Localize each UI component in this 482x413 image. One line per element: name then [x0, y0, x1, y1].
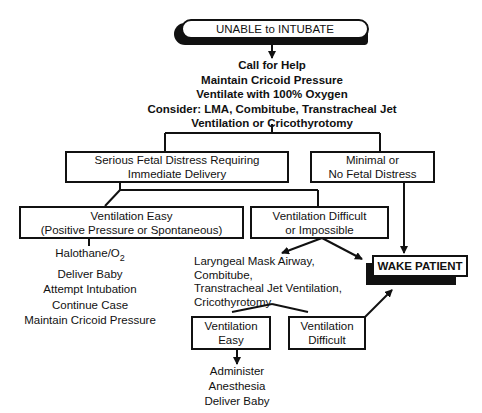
action-line: Ventilate with 100% Oxygen — [130, 87, 414, 102]
action-line: Deliver Baby — [10, 267, 170, 283]
option-line: Laryngeal Mask Airway, — [194, 255, 364, 269]
title-text: UNABLE to INTUBATE — [216, 23, 334, 35]
action-line: Anesthesia — [197, 379, 277, 394]
box-line: (Positive Pressure or Spontaneous) — [41, 223, 223, 237]
flowchart-canvas: UNABLE to INTUBATE Call for Help Maintai… — [0, 0, 482, 413]
subscript: 2 — [120, 253, 125, 263]
sub-ventilation-easy-box: Ventilation Easy — [191, 316, 271, 350]
halothane-text: Halothane/O — [55, 247, 120, 259]
ventilation-easy-box: Ventilation Easy (Positive Pressure or S… — [19, 206, 244, 239]
serious-distress-box: Serious Fetal Distress Requiring Immedia… — [65, 151, 289, 183]
action-line: Consider: LMA, Combitube, Transtracheal … — [130, 102, 414, 117]
box-line: or Impossible — [285, 223, 353, 237]
box-line: Ventilation — [204, 319, 257, 333]
rescue-options: Laryngeal Mask Airway, Combitube, Transt… — [194, 255, 364, 309]
initial-actions: Call for Help Maintain Cricoid Pressure … — [130, 58, 414, 131]
box-line: No Fetal Distress — [328, 167, 416, 181]
wake-patient-text: WAKE PATIENT — [377, 260, 462, 272]
easy-actions: Halothane/O2 Deliver Baby Attempt Intuba… — [10, 246, 170, 329]
box-line: Difficult — [308, 333, 346, 347]
option-line: Combitube, — [194, 269, 364, 283]
box-line: Easy — [218, 333, 244, 347]
box-line: Ventilation Difficult — [273, 209, 367, 223]
box-line: Ventilation — [300, 319, 353, 333]
final-actions: Administer Anesthesia Deliver Baby — [197, 364, 277, 409]
action-line: Administer — [197, 364, 277, 379]
action-line: Ventilation or Cricothyrotomy — [130, 116, 414, 131]
ventilation-difficult-box: Ventilation Difficult or Impossible — [250, 206, 389, 239]
action-line: Deliver Baby — [197, 394, 277, 409]
action-line: Call for Help — [130, 58, 414, 73]
sub-ventilation-difficult-box: Ventilation Difficult — [288, 316, 366, 350]
minimal-distress-box: Minimal or No Fetal Distress — [310, 151, 435, 183]
box-line: Minimal or — [346, 153, 399, 167]
wake-patient-box: WAKE PATIENT — [372, 255, 468, 277]
box-line: Ventilation Easy — [91, 209, 173, 223]
option-line: Cricothyrotomy — [194, 296, 364, 310]
box-line: Serious Fetal Distress Requiring — [95, 153, 260, 167]
action-line: Continue Case — [10, 298, 170, 314]
option-line: Transtracheal Jet Ventilation, — [194, 282, 364, 296]
action-line: Maintain Cricoid Pressure — [130, 73, 414, 88]
action-line: Maintain Cricoid Pressure — [10, 313, 170, 329]
box-line: Immediate Delivery — [128, 167, 226, 181]
action-line: Attempt Intubation — [10, 282, 170, 298]
title-banner: UNABLE to INTUBATE — [181, 19, 369, 39]
action-line: Halothane/O2 — [10, 246, 170, 267]
